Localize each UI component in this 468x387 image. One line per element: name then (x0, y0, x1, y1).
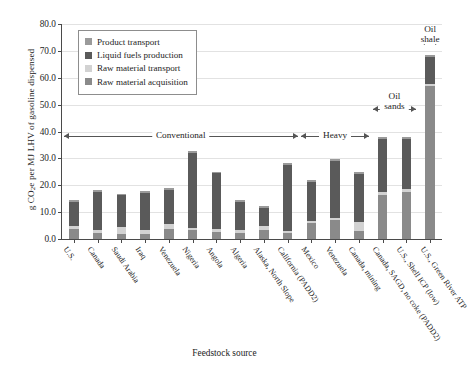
x-axis-title: Feedstock source (0, 348, 449, 358)
x-axis-tick (121, 239, 122, 243)
x-axis-tick-label: Alaska, North Slope (252, 245, 297, 304)
x-axis-tick (98, 239, 99, 243)
bar-segment (259, 230, 268, 239)
x-axis-tick (74, 239, 75, 243)
group-bracket: Heavy (301, 130, 368, 141)
bar-segment (140, 193, 149, 230)
bar (259, 206, 268, 239)
bar (93, 190, 102, 239)
x-axis-tick (169, 239, 170, 243)
bar (188, 151, 197, 239)
y-axis-tick-label: 40.0 (40, 127, 56, 137)
y-axis-tick-label: 30.0 (40, 153, 56, 163)
y-axis-title-text: g CO (26, 190, 36, 210)
y-axis-tick-label: 20.0 (40, 180, 56, 190)
legend-label: Liquid fuels production (97, 50, 183, 60)
bracket-label: Conventional (152, 131, 210, 141)
x-axis-tick-label: Nigeria (181, 245, 202, 270)
bar-segment (164, 229, 173, 239)
bar-segment (212, 232, 221, 239)
legend-swatch (85, 78, 92, 85)
bar-segment (259, 208, 268, 226)
bar-segment (212, 173, 221, 229)
arrow-left-icon (373, 106, 378, 112)
y-axis-tick-label: 70.0 (40, 46, 56, 56)
bracket-label: Oilsands (380, 92, 408, 111)
bar-segment (378, 139, 387, 192)
legend-swatch (85, 38, 92, 45)
legend-swatch (85, 52, 92, 59)
x-axis-tick-label: Algeria (228, 245, 249, 270)
x-axis-tick (240, 239, 241, 243)
bar-segment (117, 195, 126, 226)
legend-label: Raw material acquisition (97, 77, 188, 87)
y-axis-title: g CO2e per MJ LHV of gasoline dispensed (26, 20, 37, 240)
y-axis-tick-label: 80.0 (40, 19, 56, 29)
legend-item: Product transport (85, 35, 188, 48)
x-axis-tick (216, 239, 217, 243)
legend-item: Liquid fuels production (85, 48, 188, 61)
y-axis-tick (58, 239, 62, 240)
arrow-right-icon (364, 133, 369, 139)
y-axis-tick-label: 50.0 (40, 100, 56, 110)
bracket-label: Heavy (319, 131, 351, 141)
bar (425, 55, 434, 239)
x-axis-tick (264, 239, 265, 243)
bar-segment (283, 165, 292, 231)
bar (283, 163, 292, 239)
legend-label: Product transport (97, 37, 160, 47)
bar-segment (402, 139, 411, 188)
bar-segment (354, 231, 363, 239)
x-axis-tick (311, 239, 312, 243)
bar-segment (188, 153, 197, 228)
bar-segment (69, 229, 78, 239)
y-axis-tick-label: 0.0 (44, 234, 56, 244)
x-axis-tick-label: Iraq (133, 245, 148, 261)
legend-swatch (85, 65, 92, 72)
bar (378, 137, 387, 239)
bar-segment (117, 227, 126, 234)
group-bracket: Oilshale (420, 36, 440, 47)
bar-segment (188, 230, 197, 239)
bar-segment (354, 222, 363, 231)
bar (140, 191, 149, 239)
bar-segment (330, 161, 339, 218)
x-axis-tick-label: Mexico (300, 245, 322, 270)
group-bracket: Oilsands (373, 103, 417, 114)
bar-segment (425, 86, 434, 239)
x-axis-tick-label: U.S. (62, 245, 78, 262)
x-axis-tick (335, 239, 336, 243)
bar (354, 172, 363, 239)
arrow-right-icon (293, 133, 298, 139)
bar-segment (354, 174, 363, 222)
chart-legend: Product transportLiquid fuels production… (78, 30, 197, 95)
y-axis-tick-label: 60.0 (40, 73, 56, 83)
bar (235, 200, 244, 239)
bracket-label: Oilshale (417, 25, 444, 44)
bar-segment (235, 202, 244, 230)
y-axis-title-rest: e per MJ LHV of gasoline dispensed (26, 49, 36, 187)
x-axis-tick (288, 239, 289, 243)
legend-label: Raw material transport (97, 63, 180, 73)
bar-segment (330, 220, 339, 239)
x-axis-tick (383, 239, 384, 243)
legend-item: Raw material acquisition (85, 75, 188, 88)
x-axis-tick-label: Angola (205, 245, 226, 270)
arrow-left-icon (64, 133, 69, 139)
x-axis-tick (406, 239, 407, 243)
bar (69, 200, 78, 239)
arrow-right-icon (411, 106, 416, 112)
bar-segment (69, 202, 78, 226)
x-axis-tick (145, 239, 146, 243)
bar-segment (425, 57, 434, 85)
bar (212, 172, 221, 239)
legend-item: Raw material transport (85, 62, 188, 75)
bar (164, 188, 173, 239)
bar-segment (307, 182, 316, 221)
x-axis-tick-label: U.S., Shell ICP (low) (395, 245, 442, 307)
x-axis-tick (430, 239, 431, 243)
bar-segment (378, 195, 387, 239)
group-bracket: Conventional (64, 130, 298, 141)
bar (307, 180, 316, 239)
